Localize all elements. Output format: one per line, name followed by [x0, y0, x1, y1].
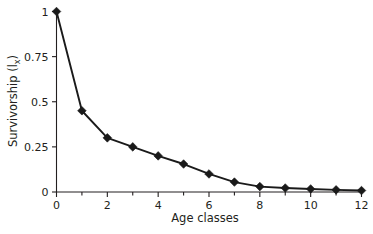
- x-tick-label-1: 2: [104, 199, 111, 212]
- x-axis-title: Age classes: [171, 211, 239, 225]
- x-tick-label-0: 0: [53, 199, 60, 212]
- y-tick-label-4: 1: [42, 6, 49, 19]
- y-axis-title-main: Survivorship (l: [6, 64, 20, 147]
- x-tick-label-5: 10: [304, 199, 318, 212]
- y-axis-title: Survivorship (lx): [6, 55, 22, 147]
- y-tick-label-2: 0.5: [31, 96, 49, 109]
- x-tick-label-2: 4: [155, 199, 162, 212]
- y-tick-label-3: 0.75: [24, 51, 49, 64]
- survivorship-chart: 00.250.50.751 024681012 Age classes Surv…: [0, 0, 373, 234]
- chart-canvas: 00.250.50.751 024681012 Age classes Surv…: [0, 0, 373, 234]
- x-tick-label-6: 12: [355, 199, 369, 212]
- y-tick-label-1: 0.25: [24, 141, 49, 154]
- x-tick-label-4: 8: [256, 199, 263, 212]
- y-axis-title-group: Survivorship (lx): [6, 55, 22, 147]
- y-tick-label-0: 0: [42, 186, 49, 199]
- y-axis-title-suffix: ): [6, 55, 20, 60]
